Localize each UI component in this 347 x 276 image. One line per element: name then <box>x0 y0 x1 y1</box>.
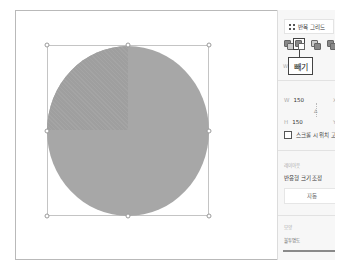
resize-handle-top-right[interactable] <box>207 43 212 48</box>
auto-button[interactable]: 자동 <box>284 188 335 204</box>
property-inspector: 반복 그리드 W 빼기 W150 X ∆ H150 Y 스크롤 시 위치 고 레… <box>277 10 335 260</box>
opacity-slider[interactable] <box>283 250 335 252</box>
divider <box>278 80 335 81</box>
height-field[interactable]: H150 <box>284 119 303 125</box>
aspect-lock[interactable]: ∆ <box>316 103 320 117</box>
fix-position-checkbox[interactable] <box>284 131 292 139</box>
layout-section-label: 레이아웃 <box>284 162 300 168</box>
height-label: H <box>284 119 288 125</box>
intersect-button[interactable] <box>310 39 320 49</box>
appearance-section-label: 모양 <box>284 224 292 230</box>
resize-handle-bottom[interactable] <box>126 214 131 219</box>
grid-icon <box>289 24 295 30</box>
subtract-button[interactable] <box>293 38 305 50</box>
subtract-icon-part <box>298 43 305 50</box>
fix-position-row[interactable]: 스크롤 시 위치 고 <box>284 131 335 139</box>
tooltip: 빼기 <box>288 57 313 75</box>
subtracted-quadrant <box>47 46 128 130</box>
width-field[interactable]: W150 <box>284 97 304 103</box>
exclude-button[interactable] <box>326 39 335 49</box>
resize-handle-top-left[interactable] <box>45 43 50 48</box>
resize-handle-top[interactable] <box>126 43 131 48</box>
resize-handle-bottom-left[interactable] <box>45 214 50 219</box>
resize-handle-bottom-right[interactable] <box>207 214 212 219</box>
opacity-label: 불투명도 <box>284 237 300 243</box>
resize-handle-left[interactable] <box>45 129 50 134</box>
lock-icon: ∆ <box>314 108 317 114</box>
height-value: 150 <box>292 119 303 125</box>
divider <box>278 150 335 151</box>
exclude-icon-part <box>330 43 335 50</box>
divider <box>278 215 335 216</box>
y-label: Y <box>333 119 335 125</box>
boolean-ops-row <box>282 38 335 50</box>
repeat-grid-label: 반복 그리드 <box>298 23 325 31</box>
union-button[interactable] <box>283 39 293 49</box>
fix-position-label: 스크롤 시 위치 고 <box>296 131 335 139</box>
x-label: X <box>333 97 335 103</box>
repeat-grid-button[interactable]: 반복 그리드 <box>284 19 334 34</box>
responsive-resize-label: 반응형 크기 조정 <box>284 174 323 182</box>
circle-shape[interactable] <box>47 46 209 216</box>
resize-handle-right[interactable] <box>207 129 212 134</box>
width-label: W <box>284 97 289 103</box>
intersect-icon-part <box>314 43 321 50</box>
width-value: 150 <box>293 97 304 103</box>
